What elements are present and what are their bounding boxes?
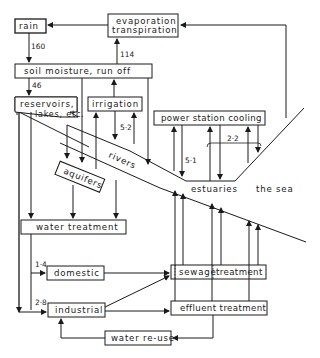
water-reuse-node: water re-use [105, 331, 175, 345]
rain-node: rain [15, 19, 46, 33]
water-treatment-node: water treatment [21, 220, 126, 234]
effluent-treatment-label: effluent treatment [180, 303, 267, 313]
irrigation-label: irrigation [92, 99, 139, 109]
transpiration-label: transpiration [112, 25, 178, 35]
water-cycle-diagram: rivers estuaries the sea rain evaporatio… [0, 0, 320, 358]
evaporation-node: evaporation transpiration [108, 14, 178, 37]
flow-industrial: 2·8 [35, 298, 47, 307]
domestic-node: domestic [47, 266, 104, 280]
aquifers-node: aquifers [55, 161, 105, 192]
sea-label: the sea [256, 184, 293, 194]
flow-domestic: 1·4 [35, 260, 47, 269]
industrial-node: industrial [48, 303, 105, 317]
flow-rain-to-soil: 160 [31, 42, 45, 51]
reservoirs-label: reservoirs, [20, 99, 74, 109]
soil-moisture-node: soil moisture, run off [15, 64, 152, 78]
flow-power-inland: 5·1 [185, 156, 197, 165]
power-station-label: power station cooling [161, 113, 262, 123]
power-station-node: power station cooling [154, 111, 265, 125]
sewage-label: sewage [179, 267, 217, 277]
estuaries-label: estuaries [191, 184, 238, 194]
water-treatment-label: water treatment [36, 222, 118, 232]
industrial-label: industrial [55, 305, 103, 315]
flow-soil-to-reservoirs-visible: 46 [32, 81, 42, 90]
irrigation-node: irrigation [88, 97, 142, 111]
domestic-label: domestic [54, 268, 100, 278]
rain-label: rain [19, 21, 39, 31]
soil-moisture-label: soil moisture, run off [24, 66, 131, 76]
effluent-treatment-node: effluent treatment [171, 301, 267, 315]
water-reuse-label: water re-use [111, 333, 175, 343]
sewage-treatment-node: sewage treatment [171, 265, 266, 279]
flow-power-coastal: 2·2 [227, 134, 239, 143]
treatment-label: treatment [216, 267, 263, 277]
flow-irrigation: 5·2 [120, 123, 132, 132]
lakes-label: lakes, etc. [35, 110, 84, 119]
flow-soil-to-evap: 114 [120, 50, 134, 59]
